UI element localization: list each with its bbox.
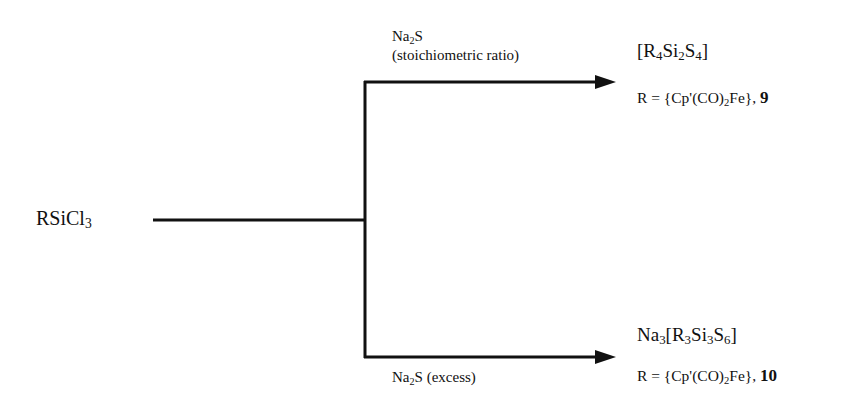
bottom-product: Na3[R3Si3S6] bbox=[637, 324, 737, 346]
bottom-reagent-na: Na bbox=[392, 369, 410, 385]
p9-part: S bbox=[685, 40, 696, 61]
r9-suffix: Fe}, bbox=[729, 89, 760, 106]
bottom-reagent-tail: S (excess) bbox=[415, 369, 476, 385]
bottom-reagent: Na2S (excess) bbox=[392, 368, 476, 386]
starting-material-formula: RSiCl bbox=[36, 207, 85, 229]
starting-material-subscript: 3 bbox=[85, 216, 92, 231]
top-arrow-head-icon bbox=[595, 75, 616, 89]
starting-material: RSiCl3 bbox=[36, 207, 92, 230]
r10-prefix: R = {Cp'(CO) bbox=[637, 367, 724, 384]
p9-part: ] bbox=[702, 40, 708, 61]
top-reagent: Na2S bbox=[392, 27, 423, 45]
p10-part: Si bbox=[691, 324, 707, 345]
p10-part: S bbox=[713, 324, 724, 345]
p10-part: [R bbox=[666, 324, 685, 345]
compound-number-10: 10 bbox=[760, 366, 777, 385]
compound-number-9: 9 bbox=[760, 88, 769, 107]
r10-suffix: Fe}, bbox=[729, 367, 760, 384]
p10-part: Na bbox=[637, 324, 659, 345]
top-r-definition: R = {Cp'(CO)2Fe}, 9 bbox=[637, 88, 768, 108]
p9-part: [R bbox=[637, 40, 656, 61]
bottom-r-definition: R = {Cp'(CO)2Fe}, 10 bbox=[637, 366, 777, 386]
top-product: [R4Si2S4] bbox=[637, 40, 708, 62]
top-reagent-s: S bbox=[415, 28, 423, 44]
top-condition: (stoichiometric ratio) bbox=[392, 46, 519, 64]
p9-part: Si bbox=[662, 40, 678, 61]
bottom-arrow-head-icon bbox=[595, 350, 616, 364]
p10-part: ] bbox=[730, 324, 736, 345]
top-reagent-na: Na bbox=[392, 28, 410, 44]
r9-prefix: R = {Cp'(CO) bbox=[637, 89, 724, 106]
